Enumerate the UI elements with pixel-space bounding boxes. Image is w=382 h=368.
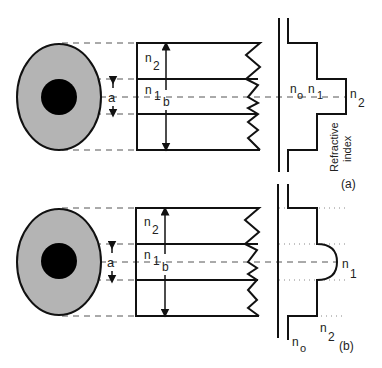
label-n1-core-a: n xyxy=(145,83,152,97)
label-n1-peak-sub-b: 1 xyxy=(350,267,357,281)
label-n2-sub-a: 2 xyxy=(153,59,160,73)
label-n0-sub-b: o xyxy=(300,342,306,354)
label-n1-peak-b: n xyxy=(342,257,349,271)
guide-lines-b xyxy=(62,208,336,316)
label-a: a xyxy=(108,90,116,105)
axis-title-refractive: Refractive xyxy=(328,122,340,172)
label-n0-b: n xyxy=(292,335,299,349)
caption-b: (b) xyxy=(339,339,354,353)
label-n1-sub-a: 1 xyxy=(154,89,161,103)
panel-a: a n 2 n 1 b n o n 1 n 2 Refractive index… xyxy=(17,18,365,191)
label-a-b: a xyxy=(107,255,115,270)
label-n0-a: n xyxy=(290,82,297,96)
fiber-diagram: a n 2 n 1 b n o n 1 n 2 Refractive index… xyxy=(0,0,382,368)
axis-title-index: index xyxy=(341,135,353,162)
label-b-b: b xyxy=(162,260,169,274)
guide-lines-a xyxy=(62,43,346,150)
label-n2-level-b: n xyxy=(320,321,327,335)
label-n2-level-sub-b: 2 xyxy=(328,330,335,344)
label-n2-axis-sub-a: 2 xyxy=(358,96,365,110)
label-b-a: b xyxy=(163,95,170,109)
caption-a: (a) xyxy=(341,177,356,191)
label-n1-axis-a: n xyxy=(308,82,315,96)
label-n1-core-b: n xyxy=(144,248,151,262)
label-n2-cladding-a: n xyxy=(145,51,152,65)
core-cross-section-a xyxy=(41,79,77,115)
panel-b: a n 2 n 1 b n 1 n 2 n o (b) xyxy=(17,184,357,354)
label-n0-sub-a: o xyxy=(297,89,303,101)
label-n2-sub-b: 2 xyxy=(152,223,159,237)
label-n2-axis-a: n xyxy=(350,87,357,101)
core-cross-section-b xyxy=(41,243,77,279)
label-n2-cladding-b: n xyxy=(144,215,151,229)
label-n1-sub-b: 1 xyxy=(153,254,160,268)
label-n1-axis-sub-a: 1 xyxy=(317,89,323,101)
